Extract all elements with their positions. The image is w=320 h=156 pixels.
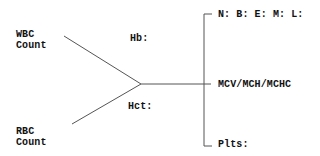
rbc-label-line2: Count xyxy=(16,137,47,148)
hct-label: Hct: xyxy=(128,101,152,112)
wbc-label: WBC Count xyxy=(16,29,47,51)
fishbone-lines xyxy=(0,0,320,156)
rbc-label: RBC Count xyxy=(16,126,47,148)
wbc-label-line1: WBC xyxy=(16,29,47,40)
platelets-label: Plts: xyxy=(218,139,249,150)
rbc-label-line1: RBC xyxy=(16,126,47,137)
hb-label: Hb: xyxy=(130,33,148,44)
wbc-label-line2: Count xyxy=(16,40,47,51)
differential-label: N: B: E: M: L: xyxy=(218,9,303,20)
indices-label: MCV/MCH/MCHC xyxy=(218,79,291,90)
